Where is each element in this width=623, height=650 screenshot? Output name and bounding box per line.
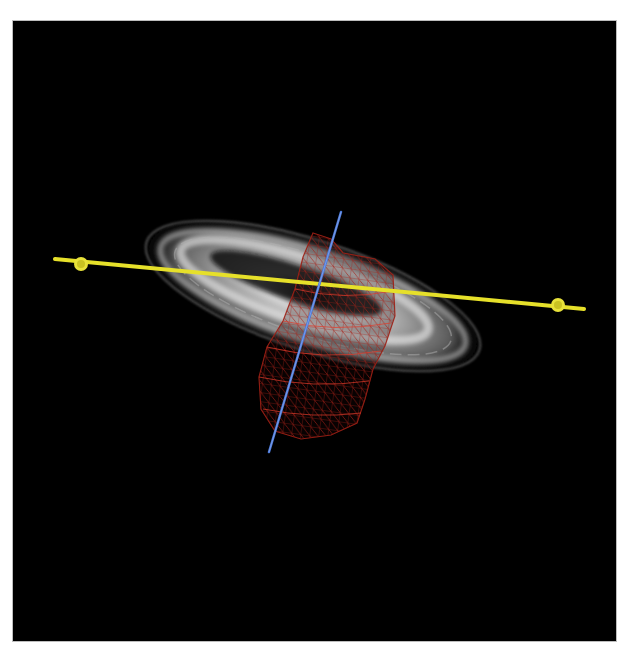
3d-render-viewport[interactable] bbox=[12, 20, 617, 642]
scene-canvas[interactable] bbox=[13, 21, 617, 642]
yellow-axis-handle-left[interactable] bbox=[74, 257, 88, 271]
yellow-axis-handle-right[interactable] bbox=[551, 298, 565, 312]
